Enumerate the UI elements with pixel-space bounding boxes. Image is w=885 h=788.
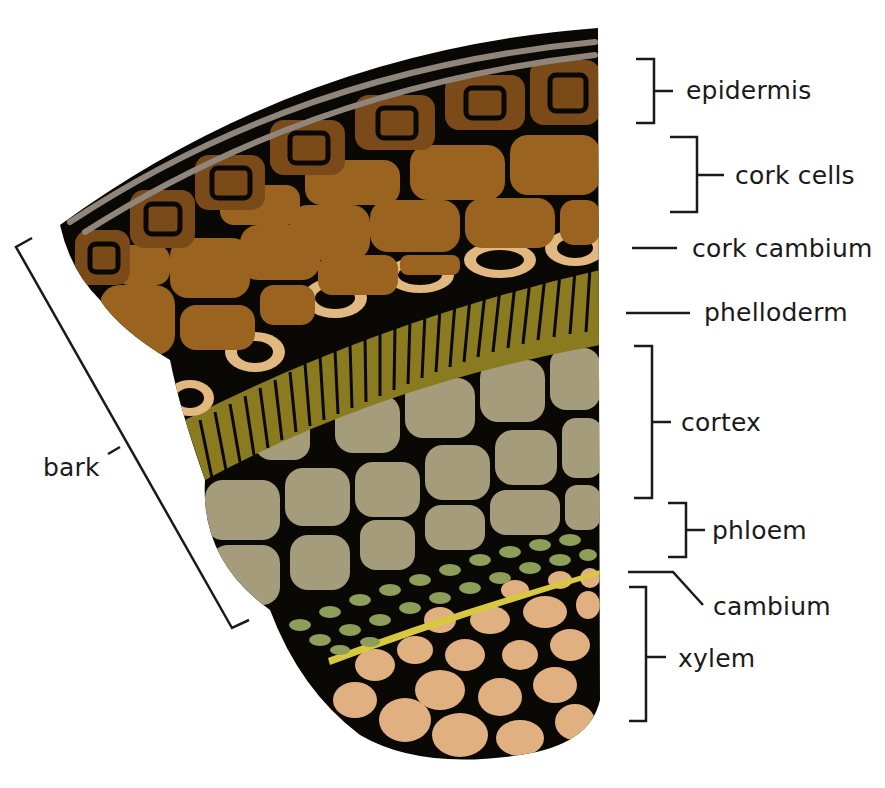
label-epidermis: epidermis	[686, 78, 811, 103]
label-cortex: cortex	[681, 410, 761, 435]
epidermis-bracket	[636, 59, 673, 123]
label-cambium: cambium	[713, 594, 831, 619]
cortex-bracket	[634, 346, 671, 498]
xylem-bracket	[629, 587, 666, 721]
cambium-leader	[628, 572, 703, 605]
cork-cells-bracket	[670, 137, 724, 212]
label-bark: bark	[43, 455, 100, 480]
label-xylem: xylem	[678, 646, 755, 671]
label-cork-cambium: cork cambium	[692, 236, 873, 261]
label-phloem: phloem	[712, 518, 807, 543]
label-cork-cells: cork cells	[735, 163, 855, 188]
label-phelloderm: phelloderm	[704, 300, 848, 325]
phloem-bracket	[668, 503, 705, 557]
